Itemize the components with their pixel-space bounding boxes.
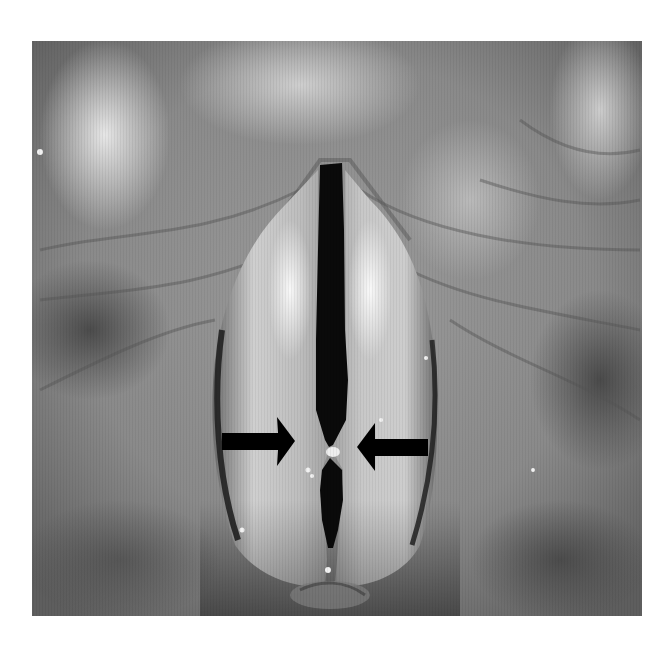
figure: Laryngoscopic view of the vocal folds wi… [0,0,672,645]
laryngoscopy-photo [32,41,642,616]
